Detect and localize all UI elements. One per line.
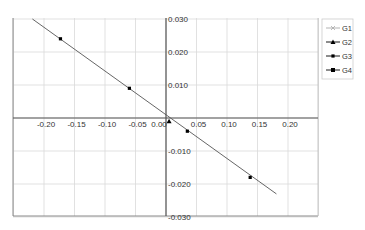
x-tick-label: 0.15 <box>252 120 268 129</box>
x-tick-label: -0.15 <box>67 120 86 129</box>
legend-label-g4: G4 <box>342 66 352 75</box>
trend-line <box>32 19 276 194</box>
x-tick-label: 0.05 <box>191 120 207 129</box>
data-point-g3 <box>59 37 62 40</box>
x-tick-label: -0.10 <box>98 120 117 129</box>
legend-label-g2: G2 <box>342 38 352 47</box>
x-tick-label: -0.05 <box>128 120 147 129</box>
legend: G1G2G3G4 <box>322 19 353 79</box>
y-tick-label: 0.020 <box>168 48 189 57</box>
legend-marker-icon <box>331 68 335 72</box>
data-point-g3 <box>186 130 189 133</box>
plot-series <box>32 19 276 194</box>
legend-marker-icon <box>331 54 334 57</box>
y-tick-label: -0.030 <box>168 213 191 222</box>
y-tick-label: 0.030 <box>168 15 189 24</box>
legend-label-g3: G3 <box>342 52 352 61</box>
x-tick-label: 0.00 <box>151 120 167 129</box>
x-tick-label: 0.20 <box>282 120 298 129</box>
x-tick-label: 0.10 <box>221 120 237 129</box>
legend-label-g1: G1 <box>342 24 352 33</box>
y-tick-label: -0.010 <box>168 147 191 156</box>
y-tick-label: -0.020 <box>168 180 191 189</box>
y-tick-label: 0.010 <box>168 81 189 90</box>
x-tick-label: -0.20 <box>37 120 56 129</box>
data-point-g2 <box>167 119 172 124</box>
data-point-g3 <box>128 87 131 90</box>
axes <box>13 18 318 216</box>
data-point-g3 <box>249 176 252 179</box>
scatter-chart: -0.20-0.15-0.10-0.050.000.050.100.150.20… <box>0 0 365 230</box>
